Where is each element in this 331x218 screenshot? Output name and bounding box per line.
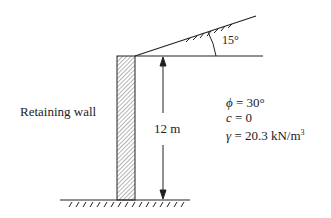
height-label: 12 m [154,121,180,137]
angle-arc [208,32,216,56]
property-cohesion: c = 0 [226,110,305,125]
property-phi: ϕ = 30° [226,95,305,110]
retaining-wall [117,56,135,200]
soil-properties: ϕ = 30° c = 0 γ = 20.3 kN/m3 [226,95,305,143]
angle-label: 15° [222,33,239,48]
property-unit-weight: γ = 20.3 kN/m3 [226,125,305,143]
ground-hatch [69,202,184,207]
wall-label: Retaining wall [20,104,96,120]
retaining-wall-diagram: Retaining wall 12 m 15° ϕ = 30° c = 0 γ … [0,0,331,218]
